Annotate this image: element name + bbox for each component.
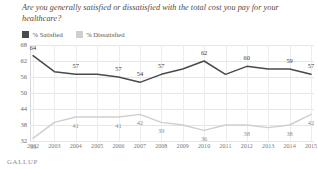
legend-item-satisfied[interactable]: % Satisfied	[22, 31, 63, 38]
legend-item-dissatisfied[interactable]: % Dissatisfied	[76, 31, 125, 38]
data-point-label: 41	[73, 123, 79, 129]
x-tick-label: 2004	[70, 143, 82, 149]
x-tick-label: 2003	[48, 143, 60, 149]
data-point-label: 57	[308, 63, 314, 69]
data-point-label: 59	[286, 58, 292, 64]
gridline-horizontal	[30, 141, 314, 142]
data-point-label: 38	[244, 131, 250, 137]
x-tick-label: 2005	[91, 143, 103, 149]
plot-area: 645757545762605957334141423936383842	[30, 45, 314, 141]
data-point-label: 41	[115, 123, 121, 129]
gallup-logo: GALLUP	[7, 158, 38, 165]
legend-label-dissatisfied: % Dissatisfied	[86, 31, 124, 38]
data-point-label: 42	[308, 120, 314, 126]
x-tick-label: 2008	[155, 143, 167, 149]
chart-title: Are you generally satisfied or dissatisf…	[22, 3, 298, 24]
x-tick-label: 2007	[134, 143, 146, 149]
legend-swatch-satisfied	[22, 31, 29, 38]
y-axis-ticks: 68625650443832	[0, 45, 30, 141]
y-tick-label: 56	[20, 74, 27, 81]
data-point-label: 42	[137, 120, 143, 126]
data-point-label: 57	[158, 63, 164, 69]
y-tick-label: 44	[20, 106, 27, 113]
data-point-label: 60	[244, 55, 250, 61]
legend-swatch-dissatisfied	[76, 31, 83, 38]
x-tick-label: 2015	[305, 143, 317, 149]
data-point-label: 57	[115, 66, 121, 72]
data-point-label: 62	[201, 50, 207, 56]
data-point-label: 54	[137, 71, 143, 77]
chart-legend: % Satisfied % Dissatisfied	[22, 29, 125, 39]
x-tick-label: 2009	[177, 143, 189, 149]
y-tick-label: 50	[20, 90, 27, 97]
gallup-line-chart: Are you generally satisfied or dissatisf…	[0, 0, 318, 169]
data-point-label: 57	[73, 63, 79, 69]
x-tick-label: 2006	[112, 143, 124, 149]
data-point-label: 64	[30, 44, 36, 50]
x-tick-label: 2012	[241, 143, 253, 149]
x-tick-label: 2010	[198, 143, 210, 149]
data-point-label: 39	[158, 128, 164, 134]
y-tick-label: 38	[20, 122, 27, 129]
x-tick-label: 2014	[284, 143, 296, 149]
y-tick-label: 68	[20, 42, 27, 49]
data-point-label: 36	[201, 136, 207, 142]
x-axis-ticks: 2002200320042005200620072008200920102011…	[30, 143, 314, 155]
y-tick-label: 62	[20, 58, 27, 65]
x-tick-label: 2013	[262, 143, 274, 149]
x-tick-label: 2011	[220, 143, 232, 149]
x-tick-label: 2002	[27, 143, 39, 149]
legend-label-satisfied: % Satisfied	[33, 31, 63, 38]
data-point-label: 38	[286, 131, 292, 137]
